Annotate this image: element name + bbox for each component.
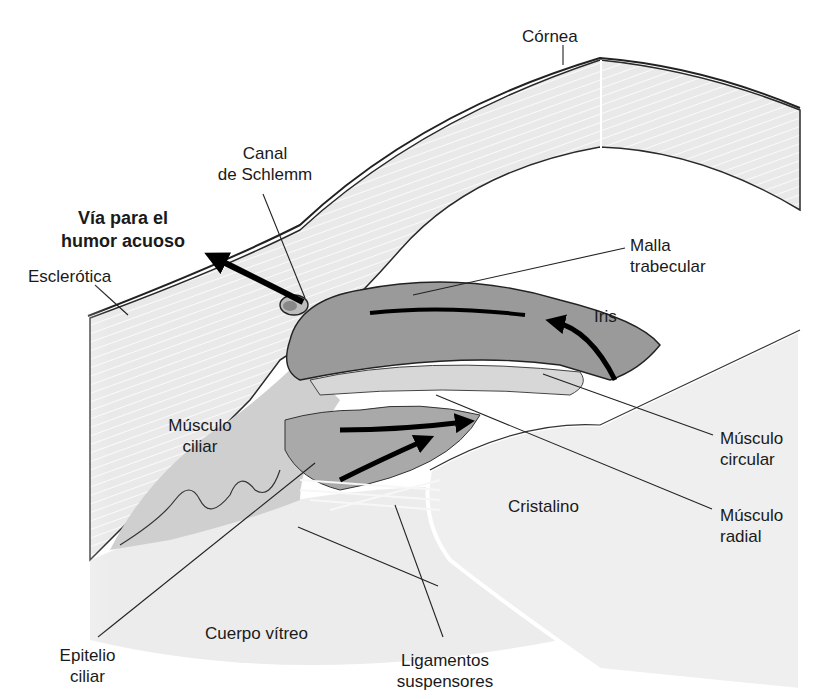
label-radial-muscle: Músculo radial [720,505,783,547]
label-line: Esclerótica [28,266,111,287]
label-line: Cuerpo vítreo [205,623,308,644]
label-line: Ligamentos [380,650,510,671]
label-line: radial [720,526,783,547]
diagram-artwork [0,0,817,699]
label-line: suspensores [380,671,510,692]
label-line: Iris [594,306,617,327]
label-ciliary-muscle: Músculo ciliar [155,415,245,457]
label-lens: Cristalino [508,496,579,517]
label-line: Músculo [720,428,783,449]
label-cornea-text: Córnea [522,26,578,47]
label-line: trabecular [630,256,706,277]
label-line: de Schlemm [180,164,350,185]
label-line: humor acuoso [48,230,198,253]
label-aqueous-pathway: Vía para el humor acuoso [48,207,198,253]
label-vitreous-body: Cuerpo vítreo [205,623,308,644]
eye-anatomy-diagram: Córnea Canal de Schlemm Vía para el humo… [0,0,817,699]
label-line: ciliar [155,436,245,457]
label-line: Canal [180,143,350,164]
label-line: ciliar [50,666,125,687]
label-suspensory-ligaments: Ligamentos suspensores [380,650,510,692]
label-sclera: Esclerótica [28,266,111,287]
label-canal-schlemm: Canal de Schlemm [180,143,350,185]
label-ciliary-epithelium: Epitelio ciliar [50,645,125,687]
label-line: Epitelio [50,645,125,666]
label-circular-muscle: Músculo circular [720,428,783,470]
label-line: Cristalino [508,496,579,517]
label-line: Músculo [155,415,245,436]
label-line: Malla [630,235,706,256]
label-line: Músculo [720,505,783,526]
label-cornea: Córnea [522,26,578,47]
label-iris: Iris [594,306,617,327]
label-line: circular [720,449,783,470]
label-trabecular-mesh: Malla trabecular [630,235,706,277]
label-line: Vía para el [48,207,198,230]
